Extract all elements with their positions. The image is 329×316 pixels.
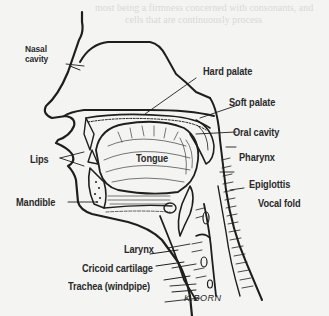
artist-signature: K.BORN	[184, 293, 222, 303]
label-lips: Lips	[30, 153, 49, 165]
epiglottis	[178, 186, 193, 236]
hyoid-bone	[164, 203, 176, 213]
label-epiglottis: Epiglottis	[249, 178, 290, 190]
label-pharynx: Pharynx	[239, 151, 275, 163]
label-trachea: Trachea (windpipe)	[68, 280, 150, 292]
larynx-back	[204, 204, 216, 296]
nasal-cavity-roof	[80, 42, 210, 98]
upper-teeth	[84, 118, 94, 150]
label-mandible: Mandible	[16, 196, 55, 208]
label-nasal-cavity: Nasal cavity	[25, 44, 48, 64]
label-soft-palate: Soft palate	[229, 96, 275, 108]
label-cricoid-cartilage: Cricoid cartilage	[82, 262, 153, 274]
label-vocal-fold: Vocal fold	[258, 197, 301, 209]
soft-palate	[190, 120, 214, 164]
label-oral-cavity: Oral cavity	[233, 126, 279, 138]
label-hard-palate: Hard palate	[203, 65, 252, 77]
vocal-fold	[196, 234, 210, 238]
label-nasal-cavity-line2: cavity	[25, 54, 48, 64]
label-tongue: Tongue	[136, 152, 168, 164]
label-larynx: Larynx	[124, 243, 154, 255]
